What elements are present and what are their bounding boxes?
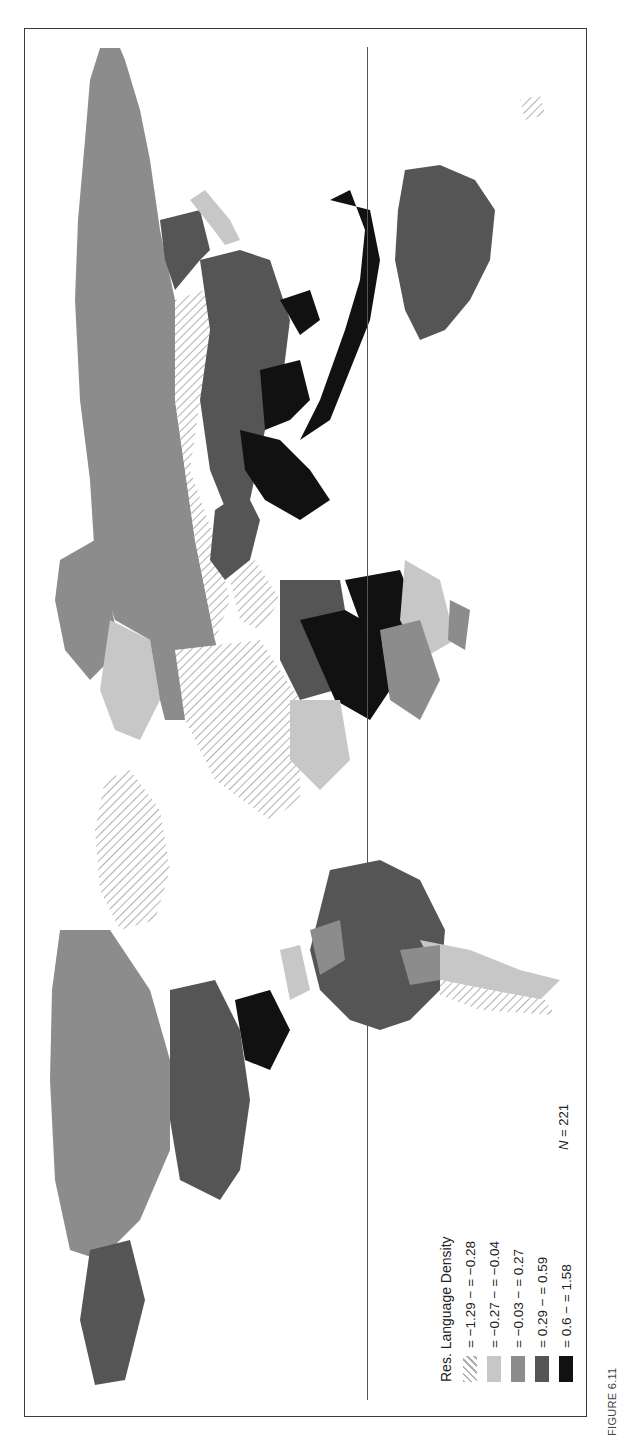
region-greenland (95, 770, 170, 930)
region-alaska (80, 1240, 145, 1385)
legend-item: = 0.6 − = 1.58 (556, 1264, 576, 1382)
region-australia (395, 165, 495, 340)
region-madagascar (448, 600, 470, 650)
region-new-zealand (520, 95, 545, 120)
region-india (240, 430, 330, 520)
legend-item: = 0.29 − = 0.59 (532, 1257, 552, 1382)
mid-gray-swatch-icon (511, 1356, 525, 1382)
black-swatch-icon (559, 1356, 573, 1382)
dark-gray-swatch-icon (535, 1356, 549, 1382)
legend-item: = −1.29 − = −0.28 (460, 1241, 480, 1382)
equator-line (367, 47, 368, 1400)
legend-item: = −0.27 − = −0.04 (484, 1241, 504, 1382)
region-arabia (230, 560, 280, 630)
region-north-africa (175, 640, 300, 820)
figure-caption: FIGURE 6.11 (606, 1367, 618, 1436)
sample-size-label: N = 221 (556, 1104, 571, 1150)
legend-title: Res. Language Density (438, 1236, 454, 1382)
region-southeast-asia (260, 360, 310, 430)
legend-item: = −0.03 − = 0.27 (508, 1249, 528, 1382)
region-canada (50, 930, 170, 1260)
legend: Res. Language Density = −1.29 − = −0.28 … (438, 1100, 578, 1400)
region-central-america (280, 945, 310, 1000)
hatched-swatch-icon (463, 1356, 477, 1382)
light-gray-swatch-icon (487, 1356, 501, 1382)
